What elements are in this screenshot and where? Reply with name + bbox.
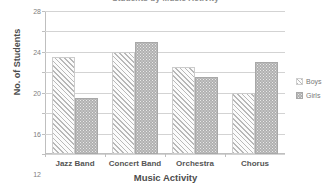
legend-item-girls: Girls <box>296 92 322 99</box>
legend-label: Girls <box>306 92 320 99</box>
bar-girls <box>135 42 158 154</box>
bar-group: Concert Band <box>105 11 165 154</box>
y-axis-title: No. of Students <box>12 14 22 110</box>
y-tick-label: 24 <box>33 48 41 55</box>
legend-swatch-icon <box>296 92 303 99</box>
plot-area: 0481216202428 Jazz BandConcert BandOrche… <box>45 11 285 154</box>
bar-group: Chorus <box>225 11 285 154</box>
legend-label: Boys <box>306 78 322 85</box>
legend-swatch-icon <box>296 78 303 85</box>
x-tick-label: Concert Band <box>109 159 161 168</box>
x-tick-label: Jazz Band <box>55 159 94 168</box>
legend-item-boys: Boys <box>296 78 322 85</box>
x-tick-mark <box>165 154 166 157</box>
x-tick-mark <box>105 154 106 157</box>
bar-chart: Students by Music Activity No. of Studen… <box>0 0 331 190</box>
bar-boys <box>232 93 255 154</box>
bar-girls <box>75 98 98 154</box>
x-tick-mark <box>225 154 226 157</box>
bar-boys <box>112 52 135 154</box>
y-tick-label: 16 <box>33 130 41 137</box>
bar-girls <box>255 62 278 154</box>
bar-boys <box>172 67 195 154</box>
y-tick-label: 28 <box>33 8 41 15</box>
y-tick-label: 20 <box>33 89 41 96</box>
bar-groups: Jazz BandConcert BandOrchestraChorus <box>45 11 285 154</box>
bar-group: Orchestra <box>165 11 225 154</box>
chart-title: Students by Music Activity <box>0 0 331 3</box>
bar-girls <box>195 77 218 154</box>
x-tick-label: Chorus <box>241 159 269 168</box>
bar-boys <box>52 57 75 154</box>
legend: BoysGirls <box>296 78 322 99</box>
bar-group: Jazz Band <box>45 11 105 154</box>
x-axis-title: Music Activity <box>0 172 331 183</box>
x-tick-label: Orchestra <box>176 159 214 168</box>
x-tick-mark <box>45 154 46 157</box>
